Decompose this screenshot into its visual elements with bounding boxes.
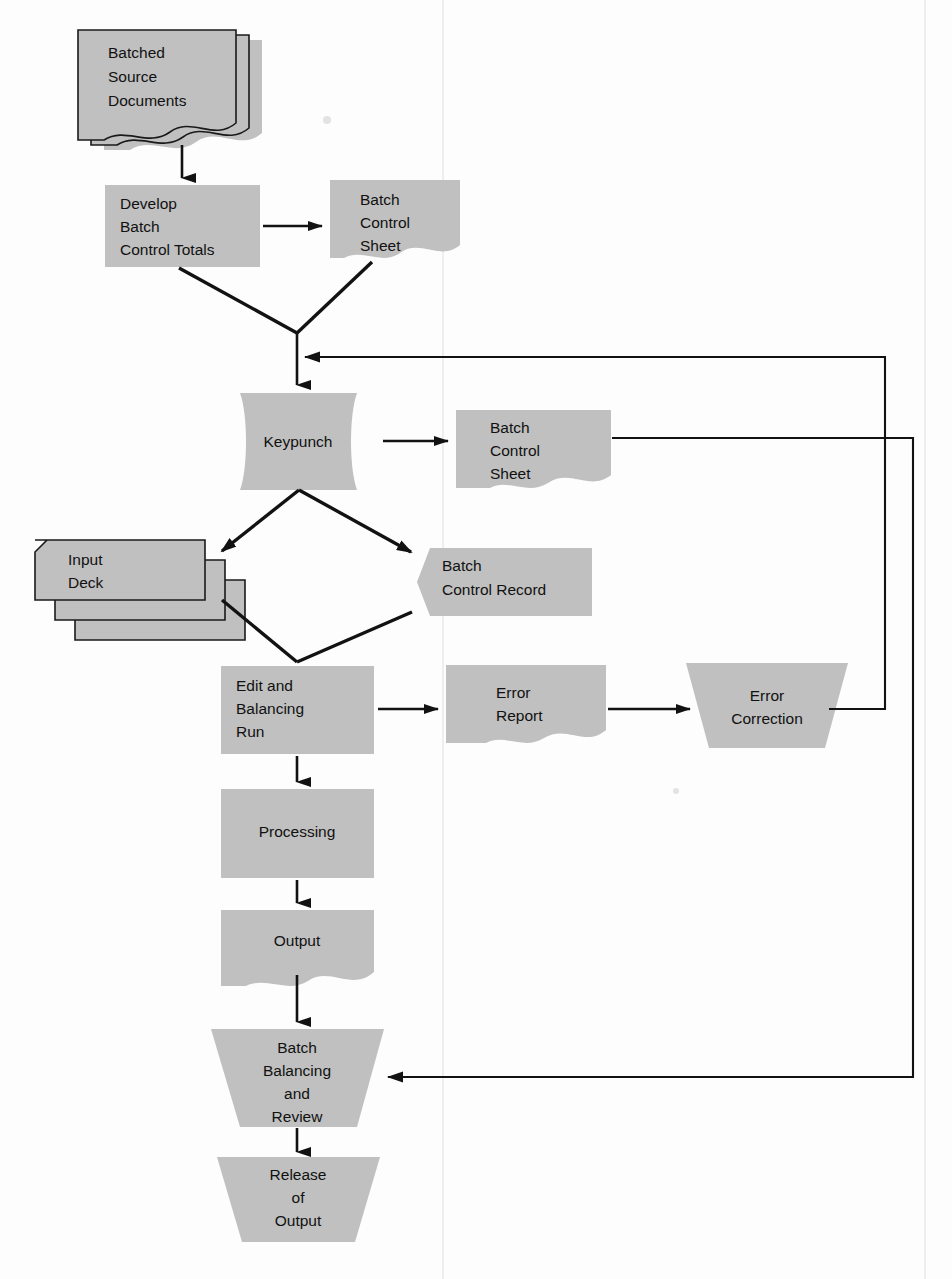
batch-control-sheet-1-label-line1: Batch [360,191,400,208]
output-label: Output [274,932,321,949]
batched-source-documents-label-line3: Documents [108,92,187,109]
node-keypunch[interactable]: Keypunch [240,393,357,490]
batch-control-sheet-2-label-line1: Batch [490,419,530,436]
error-correction-label-line2: Correction [731,710,803,727]
node-batched-source-documents[interactable]: Batched Source Documents [78,30,262,150]
connector-develop-sheet1-to-keypunch-junction [179,262,372,385]
node-error-report[interactable]: Error Report [446,665,606,743]
error-report-shape [446,665,606,743]
flowchart-canvas: Batched Source Documents Develop Batch C… [0,0,952,1279]
node-processing[interactable]: Processing [221,789,374,878]
batch-balancing-and-review-label-line1: Batch [277,1039,317,1056]
node-error-correction[interactable]: Error Correction [686,663,848,748]
batch-control-sheet-1-label-line3: Sheet [360,237,401,254]
error-report-label-line2: Report [496,707,543,724]
scan-guide-lines [443,0,925,1279]
keypunch-label: Keypunch [264,433,333,450]
error-correction-label-line1: Error [750,687,784,704]
batch-balancing-and-review-label-line4: Review [272,1108,324,1125]
error-report-label-line1: Error [496,684,530,701]
edit-and-balancing-run-label-line1: Edit and [236,677,293,694]
node-batch-control-sheet-2[interactable]: Batch Control Sheet [456,410,611,488]
input-deck-card-front [35,540,205,600]
develop-batch-control-totals-label-line3: Control Totals [120,241,215,258]
connector-sheet2-feedback [388,438,913,1077]
connector-error-correction-feedback [305,357,885,709]
batch-control-record-label-line1: Batch [442,557,482,574]
diagonal-to-batch-control-record [299,490,411,552]
batch-control-sheet-2-label-line2: Control [490,442,540,459]
input-deck-label-line2: Deck [68,574,104,591]
develop-batch-control-totals-label-line1: Develop [120,195,177,212]
node-batch-balancing-and-review[interactable]: Batch Balancing and Review [211,1029,384,1127]
flowchart-svg: Batched Source Documents Develop Batch C… [0,0,952,1279]
error-correction-shape [686,663,848,748]
diagonal-from-sheet1 [297,262,372,333]
node-input-deck[interactable]: Input Deck [35,540,245,640]
batch-control-record-label-line2: Control Record [442,581,546,598]
diagonal-batch-control-record-to-edit [297,612,412,662]
release-of-output-label-line1: Release [270,1166,327,1183]
diagonal-from-develop [179,268,297,333]
node-output[interactable]: Output [221,910,374,986]
batch-balancing-and-review-label-line2: Balancing [263,1062,331,1079]
node-develop-batch-control-totals[interactable]: Develop Batch Control Totals [105,185,260,267]
connector-keypunch-split [222,490,411,552]
node-edit-and-balancing-run[interactable]: Edit and Balancing Run [221,666,374,754]
node-batch-control-sheet-1[interactable]: Batch Control Sheet [330,180,460,258]
input-deck-label-line1: Input [68,551,103,568]
processing-label: Processing [259,823,336,840]
connector-into-edit-run [222,600,412,662]
edit-and-balancing-run-label-line3: Run [236,723,264,740]
batch-control-sheet-1-label-line2: Control [360,214,410,231]
batched-source-documents-label-line2: Source [108,68,157,85]
batched-source-documents-label-line1: Batched [108,44,165,61]
release-of-output-label-line3: Output [275,1212,322,1229]
batch-balancing-and-review-label-line3: and [284,1085,310,1102]
batch-control-sheet-2-label-line3: Sheet [490,465,531,482]
node-batch-control-record[interactable]: Batch Control Record [417,548,592,616]
node-release-of-output[interactable]: Release of Output [217,1157,380,1242]
develop-batch-control-totals-label-line2: Batch [120,218,160,235]
edit-and-balancing-run-label-line2: Balancing [236,700,304,717]
diagonal-to-input-deck [222,490,299,551]
release-of-output-label-line2: of [292,1189,306,1206]
